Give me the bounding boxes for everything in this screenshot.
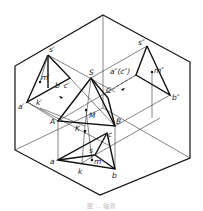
projector-line: [115, 95, 170, 126]
point-M: [85, 109, 87, 111]
label-c-top: c: [108, 130, 113, 139]
label-bc-front: b′ c′: [55, 81, 70, 90]
label-M: M: [89, 111, 96, 120]
figure-caption: 图 … 轴测: [87, 202, 115, 210]
label-s-front: s′: [49, 45, 55, 54]
arrow-icon: [121, 88, 125, 91]
label-K: K: [75, 124, 81, 133]
arrow-icon: [59, 96, 63, 99]
label-a-top: a: [50, 157, 55, 166]
label-C: C: [106, 86, 112, 95]
label-b-side: b″: [172, 93, 180, 102]
label-s-top: s: [89, 146, 93, 155]
label-m-side: m″: [154, 66, 164, 75]
label-S: S: [89, 68, 94, 77]
label-b-top: b: [112, 171, 117, 180]
label-s-side: s″: [138, 38, 145, 47]
label-m-top: m: [94, 157, 101, 166]
label-m-front: m′: [41, 73, 50, 82]
pyramid-edge-cb: [108, 98, 115, 126]
plane-edge-right: [103, 108, 190, 158]
point-m-top: [91, 159, 93, 161]
label-k-top: k: [78, 167, 83, 176]
projection-diagram: s′ m′ b′ c′ a′ k′ S A B C M K s″ a″(c″) …: [0, 0, 203, 211]
label-a-front: a′: [18, 102, 25, 111]
side-view-pyramid: [136, 46, 170, 95]
label-A: A: [49, 117, 55, 126]
label-k-front: k′: [36, 98, 42, 107]
label-B: B: [116, 117, 121, 126]
label-ac-side: a″(c″): [110, 67, 130, 76]
point-m-side: [151, 71, 153, 73]
